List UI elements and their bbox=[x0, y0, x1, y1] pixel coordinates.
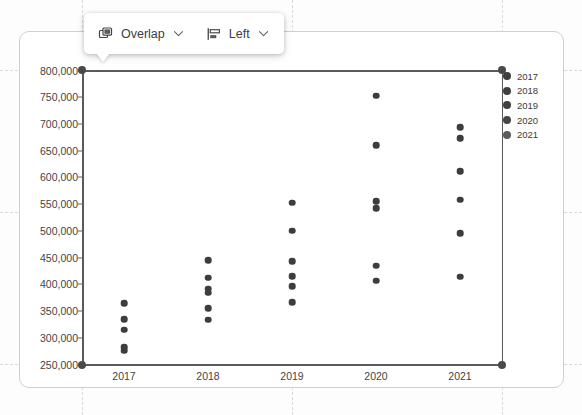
document-canvas: 250,000300,000350,000400,000450,000500,0… bbox=[0, 0, 582, 415]
text-wrap-label: Overlap bbox=[121, 27, 165, 41]
align-button[interactable]: Left bbox=[202, 20, 274, 48]
chevron-down-icon[interactable] bbox=[173, 28, 185, 40]
chevron-down-icon[interactable] bbox=[258, 28, 270, 40]
legend-color-swatch-icon bbox=[503, 116, 511, 124]
legend-item[interactable]: 2019 bbox=[503, 98, 563, 113]
text-wrap-button[interactable]: Overlap bbox=[94, 20, 189, 48]
legend-label: 2020 bbox=[517, 115, 538, 126]
chart-legend: 20172018201920202021 bbox=[503, 69, 563, 142]
legend-label: 2017 bbox=[517, 71, 538, 82]
floating-format-toolbar[interactable]: Overlap Left bbox=[84, 13, 284, 54]
legend-color-swatch-icon bbox=[503, 72, 511, 80]
legend-item[interactable]: 2017 bbox=[503, 69, 563, 84]
legend-color-swatch-icon bbox=[503, 101, 511, 109]
toolbar-pointer-tail bbox=[96, 53, 110, 62]
legend-label: 2018 bbox=[517, 85, 538, 96]
selected-chart-frame[interactable] bbox=[19, 31, 564, 388]
legend-color-swatch-icon bbox=[503, 131, 511, 139]
legend-color-swatch-icon bbox=[503, 87, 511, 95]
legend-label: 2019 bbox=[517, 100, 538, 111]
legend-label: 2021 bbox=[517, 129, 538, 140]
legend-item[interactable]: 2021 bbox=[503, 127, 563, 142]
align-label: Left bbox=[229, 27, 250, 41]
align-left-icon bbox=[206, 26, 222, 42]
legend-item[interactable]: 2018 bbox=[503, 84, 563, 99]
legend-item[interactable]: 2020 bbox=[503, 113, 563, 128]
text-wrap-overlap-icon bbox=[98, 26, 114, 42]
